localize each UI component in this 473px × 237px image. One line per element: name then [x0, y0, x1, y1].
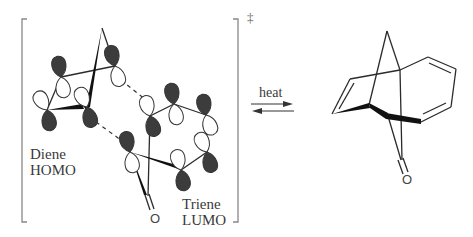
transition-state-bracket-right — [233, 19, 238, 222]
transition-state-marker: ‡ — [247, 10, 254, 26]
transition-state-bracket-left — [22, 19, 27, 222]
product-wedge-bonds — [332, 103, 421, 124]
ts-oxygen-label: O — [150, 211, 160, 226]
product-oxygen-label: O — [402, 172, 412, 187]
diene-label: Diene HOMO — [30, 146, 76, 178]
arrow-condition-label: heat — [259, 85, 282, 101]
product-bonds — [332, 31, 456, 174]
reaction-diagram — [0, 0, 473, 237]
triene-label-line1: Triene — [182, 196, 226, 212]
triene-label-line2: LUMO — [182, 212, 226, 228]
equilibrium-arrow — [251, 101, 294, 114]
triene-label: Triene LUMO — [182, 196, 226, 228]
diene-label-line2: HOMO — [30, 162, 76, 178]
diene-label-line1: Diene — [30, 146, 76, 162]
